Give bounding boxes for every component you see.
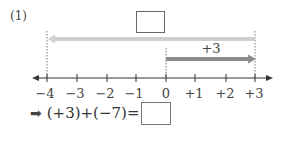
- equation-text: (+3)+(−7)=: [47, 104, 140, 122]
- unknown-move-arrow: [48, 35, 255, 44]
- tick-labels: −4 −3 −2 −1 0 +1 +2 +3: [35, 86, 263, 101]
- problem-number: (1): [10, 9, 27, 23]
- tick-marks: [47, 74, 255, 82]
- number-line-problem: (1) +3: [0, 0, 284, 142]
- tick-label: +2: [215, 86, 234, 101]
- tick-label: −3: [65, 86, 84, 101]
- equation-row: ➡ (+3)+(−7)=: [30, 101, 171, 125]
- plus-3-move-arrow: [166, 55, 256, 64]
- number-line-axis: [32, 75, 273, 81]
- tick-label: +1: [184, 86, 203, 101]
- tick-label: −4: [35, 86, 54, 101]
- move-answer-box[interactable]: [136, 11, 165, 33]
- tick-label: −1: [124, 86, 143, 101]
- tick-label: +3: [244, 86, 263, 101]
- right-arrow-icon: ➡: [30, 105, 42, 121]
- tick-label: 0: [162, 86, 170, 101]
- plus-3-arrow-label: +3: [201, 41, 220, 56]
- equation-answer-box[interactable]: [141, 102, 171, 125]
- tick-label: −2: [95, 86, 114, 101]
